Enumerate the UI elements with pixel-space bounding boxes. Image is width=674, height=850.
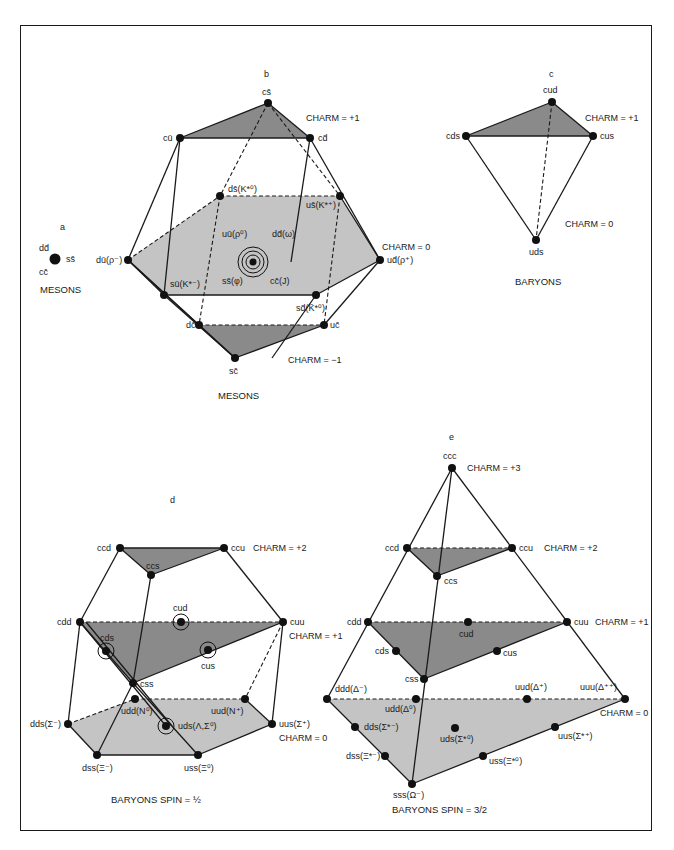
label-b-ss: ss̄(φ) [222,276,243,286]
baryon-node-d-cus [204,646,212,654]
label-e-ccc: ccc [443,451,457,461]
meson-node-b-ud [376,256,384,264]
label-e-uss: uss(Ξ*⁰) [489,756,522,766]
baryon-node-e-cus [493,647,501,655]
label-b-sc: sc̄ [229,366,239,376]
label-e-cud: cud [459,629,474,639]
label-d-cud: cud [173,603,188,613]
baryon-node-e-uus [551,723,559,731]
label-b-sd: sd̄(K̄*⁰) [296,303,325,313]
label-d-uds: uds(Λ,Σ⁰) [178,721,217,731]
caption-c: BARYONS [515,276,561,287]
label-e-udd: udd(Δ⁰) [385,704,416,714]
meson-node-a [50,254,61,265]
label-d-ccd: ccd [97,543,111,553]
baryon-node-c-cud [548,98,556,106]
baryon-node-e-dss [381,752,389,760]
meson-node-b-uc [320,321,328,329]
baryon-node-d-udd [131,695,139,703]
panel-b: b [96,69,430,401]
panel-letter-e: e [449,432,454,442]
label-b-dd: dd̄(ω) [272,229,295,239]
label-e-uus: uus(Σ*⁺) [558,731,593,741]
label-b-ud: ud̄(ρ⁺) [387,255,413,265]
label-c-uds: uds [529,247,544,257]
label-e-cdd: cdd [347,617,362,627]
meson-node-b-du [124,256,132,264]
panel-letter-a: a [60,222,65,232]
baryon-node-e-uss [479,752,487,760]
charm-label-d-plus1: CHARM = +1 [289,631,343,641]
meson-node-b-center [250,259,257,266]
panel-c: c cud cds cus uds CHARM = +1 CHARM = 0 B… [446,69,639,287]
baryon-node-e-ccc [448,464,456,472]
panel-letter-b: b [264,69,269,79]
baryon-node-d-ccu [220,544,228,552]
label-d-cds: cds [100,633,115,643]
meson-node-b-su [160,291,168,299]
baryon-node-e-uuu [621,695,629,703]
label-b-uc: uc̄ [330,320,340,330]
label-c-cus: cus [600,131,615,141]
label-d-ccu: ccu [231,543,245,553]
label-e-ddd: ddd(Δ⁻) [335,684,367,694]
panel-letter-c: c [549,69,554,79]
label-d-udd: udd(N⁰) [121,706,153,716]
label-e-uds: uds(Σ*⁰) [440,734,474,744]
baryon-node-d-cdd [76,618,84,626]
label-d-cdd: cdd [57,617,72,627]
label-b-du: dū(ρ⁻) [96,255,122,265]
plane-b-charm-plus1 [180,103,310,138]
baryon-node-e-ddd [323,695,331,703]
meson-node-b-cd [306,134,314,142]
baryon-node-d-dss [93,751,101,759]
label-b-cu: cū [163,133,173,143]
label-b-su: sū(K*⁻) [170,279,200,289]
panel-a: a dd̄ ss̄ cc̄ MESONS [39,222,81,295]
baryon-node-d-uss [194,751,202,759]
baryon-node-c-uds [532,236,540,244]
label-d-ccs: ccs [146,561,160,571]
baryon-node-e-ccs [433,572,441,580]
label-b-cs: cs̄ [262,87,272,97]
label-d-cuu: cuu [290,617,305,627]
label-b-uu: uū(ρ⁰) [222,229,247,239]
charm-label-b-minus1: CHARM = −1 [288,355,342,365]
label-e-ccd: ccd [385,543,399,553]
label-e-sss: sss(Ω⁻) [393,790,424,800]
label-e-ccs: ccs [444,576,458,586]
baryon-node-d-dds [64,720,72,728]
baryon-node-e-cuu [563,618,571,626]
label-e-cds: cds [375,646,390,656]
meson-node-b-us [336,192,344,200]
charm-label-b-zero: CHARM = 0 [382,242,430,252]
meson-node-b-dc [195,321,203,329]
panel-letter-d: d [170,495,175,505]
label-d-css: css [140,679,154,689]
baryon-node-d-ccd [116,544,124,552]
label-e-cuu: cuu [574,617,589,627]
caption-e: BARYONS SPIN = 3/2 [392,804,487,815]
baryon-node-d-ccs [147,571,155,579]
baryon-node-d-cud [177,618,185,626]
baryon-node-e-sss [408,780,416,788]
baryon-node-e-dds [351,723,359,731]
label-e-dds: dds(Σ*⁻) [364,722,399,732]
meson-node-b-sd [312,291,320,299]
label-c-cds: cds [446,131,461,141]
baryon-node-e-ccd [403,544,411,552]
charm-label-e-plus3: CHARM = +3 [467,463,521,473]
label-e-dss: dss(Ξ*⁻) [346,751,380,761]
meson-node-b-cs [264,99,272,107]
charm-label-e-zero: CHARM = 0 [600,708,648,718]
caption-a: MESONS [40,284,81,295]
baryon-node-e-uds [451,724,459,732]
meson-node-b-ds [216,192,224,200]
label-b-dc: dc̄ [186,320,196,330]
label-a-ss: ss̄ [66,254,76,264]
plane-c-charm-plus1 [466,102,593,136]
baryon-node-e-uud [523,695,531,703]
label-e-ccu: ccu [519,543,533,553]
meson-node-b-sc [231,354,239,362]
charm-label-e-plus1: CHARM = +1 [595,617,649,627]
